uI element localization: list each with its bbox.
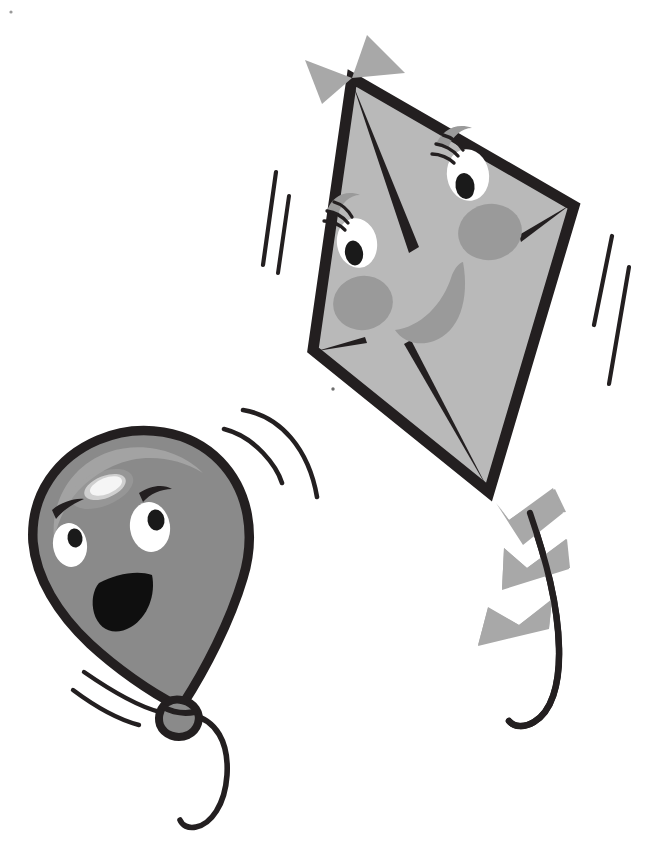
balloon-knot-group xyxy=(159,700,199,737)
background xyxy=(0,0,659,850)
illustration-canvas: Smiling Kite and Balloon Cartoon A gray … xyxy=(0,0,659,850)
stray-speck-corner xyxy=(9,10,12,13)
kite-and-balloon-illustration: Smiling Kite and Balloon Cartoon A gray … xyxy=(0,0,659,850)
stray-speck xyxy=(331,387,334,390)
